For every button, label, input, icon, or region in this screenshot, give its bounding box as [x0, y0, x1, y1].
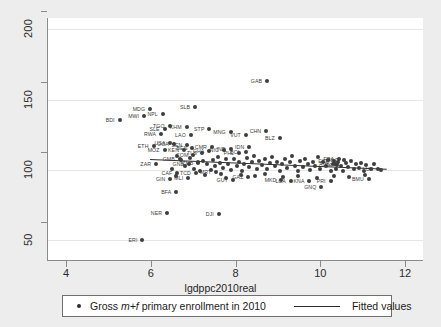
- data-point: [201, 159, 205, 163]
- data-point-label: MWI: [128, 113, 141, 119]
- data-point-label: BLZ: [265, 135, 277, 141]
- data-point: [216, 155, 220, 159]
- data-point: [367, 177, 371, 181]
- data-point: [253, 174, 257, 178]
- data-point: [303, 157, 307, 161]
- data-point-label: DJI: [206, 211, 216, 217]
- data-point-label: BDI: [106, 117, 117, 123]
- data-point: [224, 157, 228, 161]
- data-point-label: KHM: [170, 124, 184, 130]
- data-point: [232, 157, 236, 161]
- data-point-label: MDG: [133, 106, 147, 112]
- x-axis-title: lgdppc2010real: [0, 282, 441, 294]
- y-axis-tick-label: 50: [22, 226, 34, 254]
- data-point-label: BMU: [352, 176, 366, 182]
- data-point-label: GUY: [217, 177, 231, 183]
- gridline: [48, 29, 423, 30]
- data-point: [161, 112, 165, 116]
- legend-label-fitted: Fitted values: [352, 300, 412, 312]
- data-point-label: LAO: [175, 132, 188, 138]
- data-point: [301, 165, 305, 169]
- data-point: [283, 157, 287, 161]
- data-point: [154, 162, 158, 166]
- data-point: [289, 179, 293, 183]
- data-point-label: SLB: [180, 104, 192, 110]
- data-point-label: GAB: [251, 78, 264, 84]
- y-axis-tick-label: 200: [22, 15, 34, 43]
- data-point: [193, 105, 197, 109]
- x-axis-tick-label: 8: [216, 267, 256, 279]
- data-point: [369, 167, 373, 171]
- data-point: [211, 158, 215, 162]
- data-point: [174, 190, 178, 194]
- data-point: [270, 155, 274, 159]
- data-point: [247, 165, 251, 169]
- data-point: [379, 168, 383, 172]
- data-point: [308, 168, 312, 172]
- data-point: [152, 144, 156, 148]
- data-point: [163, 127, 167, 131]
- data-point-label: MNG: [213, 129, 227, 135]
- data-point: [349, 159, 353, 163]
- data-point-label: LCA: [275, 178, 287, 184]
- y-axis-tick: [41, 11, 47, 12]
- data-point: [159, 132, 163, 136]
- data-point: [315, 176, 319, 180]
- data-point: [188, 156, 192, 160]
- data-point: [334, 167, 338, 171]
- data-point: [329, 169, 333, 173]
- data-point: [346, 165, 350, 169]
- data-point: [207, 127, 211, 131]
- data-point: [313, 164, 317, 168]
- data-point: [339, 164, 343, 168]
- data-point: [174, 174, 178, 178]
- data-point: [265, 79, 269, 83]
- legend-label-scatter: Gross m+f primary enrollment in 2010: [90, 300, 266, 312]
- data-point-label: CHN: [250, 128, 264, 134]
- data-point: [341, 169, 345, 173]
- data-point: [218, 161, 222, 165]
- plot-area: GABSLBMDGNPLMWIBDITGOKHMSLESTPMNGCHNRWAL…: [47, 18, 423, 261]
- y-axis-tick-label: 150: [22, 86, 34, 114]
- data-point: [329, 179, 333, 183]
- data-point: [239, 173, 243, 177]
- x-axis-tick-label: 12: [385, 267, 425, 279]
- data-point: [247, 145, 251, 149]
- data-point-label: ZAR: [140, 161, 153, 167]
- data-point-label: BFA: [161, 189, 173, 195]
- data-point: [205, 162, 209, 166]
- data-point-label: IDN: [235, 144, 246, 150]
- data-point: [319, 185, 323, 189]
- gridline: [48, 240, 423, 241]
- data-point-label: NER: [151, 210, 164, 216]
- chart-legend: Gross m+f primary enrollment in 2010 Fit…: [62, 295, 392, 317]
- data-point: [168, 177, 172, 181]
- data-point: [268, 161, 272, 165]
- data-point: [263, 172, 267, 176]
- data-point: [242, 162, 246, 166]
- y-axis-tick-label: 100: [22, 156, 34, 184]
- data-point: [244, 133, 248, 137]
- data-point: [192, 167, 196, 171]
- data-point-label: CAF: [162, 170, 175, 176]
- data-point: [298, 159, 302, 163]
- legend-marker-scatter: [77, 304, 81, 308]
- data-point: [332, 174, 336, 178]
- data-point: [163, 148, 167, 152]
- data-point: [352, 167, 356, 171]
- data-point: [255, 167, 259, 171]
- data-point: [263, 157, 267, 161]
- data-point: [280, 162, 284, 166]
- data-point: [264, 129, 268, 133]
- data-point-label: VUT: [230, 132, 243, 138]
- data-point: [165, 211, 169, 215]
- data-point-label: KNA: [293, 178, 306, 184]
- chart-figure: 50100150200 4681012 GABSLBMDGNPLMWIBDITG…: [0, 0, 441, 327]
- data-point: [200, 151, 204, 155]
- data-point: [311, 160, 315, 164]
- data-point: [189, 133, 193, 137]
- data-point: [359, 161, 363, 165]
- data-point-label: ETH: [138, 143, 151, 149]
- data-point-label: RWA: [144, 131, 158, 137]
- x-axis-tick-label: 6: [131, 267, 171, 279]
